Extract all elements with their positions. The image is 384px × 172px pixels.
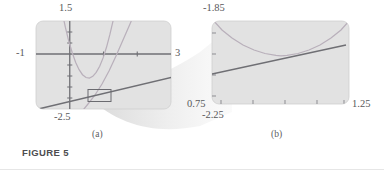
panel-b-y-min-label: -2.25 <box>202 110 224 121</box>
panel-a-y-min-label: -2.5 <box>54 112 71 123</box>
panel-b-graphics <box>212 20 349 104</box>
panel-b-plot-area <box>212 21 349 104</box>
panel-a-caption: (a) <box>92 130 103 140</box>
figure-container: 1.5 -1 3 -2.5 (a) -1.85 0.75 1.25 -2.25 … <box>0 0 384 172</box>
panel-b-caption: (b) <box>271 130 282 140</box>
panel-a-plot-area <box>36 21 171 109</box>
panel-a-x-min-label: -1 <box>16 48 25 59</box>
panel-b-x-max-label: 1.25 <box>352 99 370 110</box>
panel-b-x-min-label: 0.75 <box>187 99 205 110</box>
panel-a-x-max-label: 3 <box>175 48 180 59</box>
panel-b-y-max-label: -1.85 <box>203 3 225 14</box>
panel-a-graphics <box>32 0 175 112</box>
panel-a-y-max-label: 1.5 <box>59 3 72 14</box>
figure-caption: FIGURE 5 <box>22 147 69 158</box>
